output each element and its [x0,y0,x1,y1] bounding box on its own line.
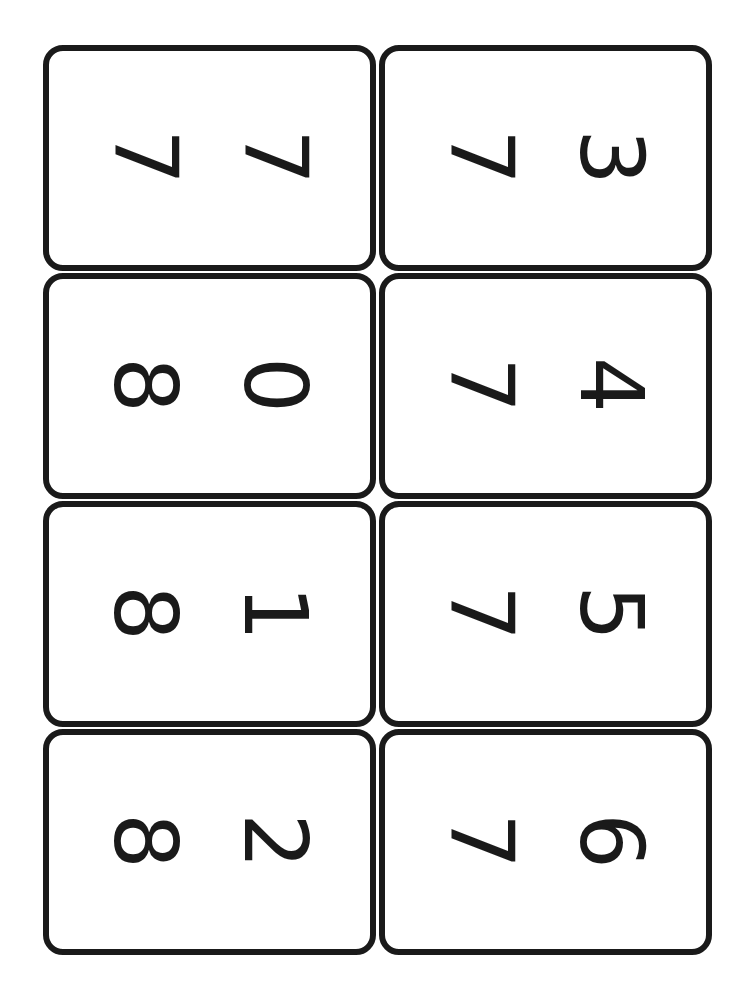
tens-digit: 7 [437,349,525,421]
number-card-80: 8 0 [43,273,376,499]
tens-digit: 8 [101,349,189,421]
card-digits: 7 7 [109,113,311,201]
tens-digit: 8 [101,577,189,649]
number-card-75: 7 5 [379,501,712,727]
tens-digit: 7 [437,577,525,649]
tens-digit: 7 [437,805,525,877]
card-digits: 7 3 [445,113,647,201]
card-digits: 7 5 [445,569,647,657]
card-digits: 7 6 [445,797,647,885]
ones-digit: 7 [231,121,319,193]
ones-digit: 6 [567,805,655,877]
ones-digit: 2 [231,805,319,877]
card-digits: 8 1 [109,569,311,657]
number-card-82: 8 2 [43,729,376,955]
ones-digit: 0 [231,349,319,421]
tens-digit: 8 [101,805,189,877]
number-card-sheet: 7 7 7 3 8 0 7 4 8 1 7 5 8 [43,45,712,954]
number-card-74: 7 4 [379,273,712,499]
tens-digit: 7 [101,121,189,193]
tens-digit: 7 [437,121,525,193]
card-digits: 8 2 [109,797,311,885]
number-card-81: 8 1 [43,501,376,727]
ones-digit: 4 [567,349,655,421]
card-digits: 8 0 [109,341,311,429]
card-digits: 7 4 [445,341,647,429]
ones-digit: 1 [231,577,319,649]
number-card-76: 7 6 [379,729,712,955]
number-card-73: 7 3 [379,45,712,271]
ones-digit: 5 [567,577,655,649]
number-card-77: 7 7 [43,45,376,271]
ones-digit: 3 [567,121,655,193]
